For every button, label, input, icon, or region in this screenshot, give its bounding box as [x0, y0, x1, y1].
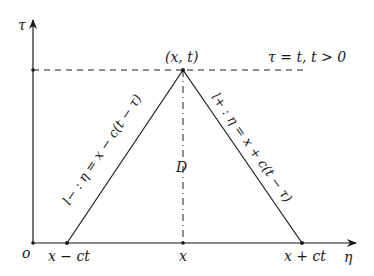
left-characteristic-line: [67, 70, 183, 243]
right-characteristic-line: [183, 70, 302, 243]
apex-point: [181, 68, 185, 72]
tau-axis-point: [31, 68, 35, 72]
origin-label: o: [22, 246, 30, 260]
eta-axis-label: η: [344, 250, 352, 264]
region-label: D: [176, 160, 187, 174]
right-base-point: [300, 241, 304, 245]
left-base-label: x − ct: [48, 249, 90, 263]
center-base-label: x: [179, 249, 187, 263]
origin-point: [31, 241, 35, 245]
right-base-label: x + ct: [284, 249, 326, 263]
diagram-canvas: [0, 0, 374, 276]
left-base-point: [65, 241, 69, 245]
tau-axis-label: τ: [18, 18, 26, 32]
apex-label: (x, t): [165, 50, 198, 64]
characteristic-triangle-diagram: τ η o (x, t) τ = t, t > 0 D x − ct x x +…: [0, 0, 374, 276]
horizon-label: τ = t, t > 0: [268, 50, 346, 64]
center-base-point: [181, 241, 185, 245]
